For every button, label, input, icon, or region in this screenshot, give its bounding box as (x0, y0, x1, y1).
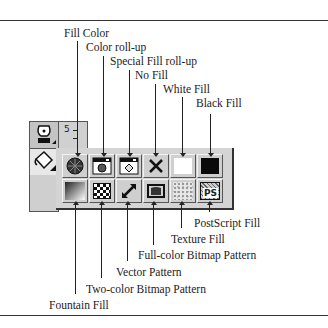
callout-line (182, 97, 183, 154)
label-fountain-fill: Fountain Fill (49, 299, 109, 311)
label-no-fill: No Fill (135, 69, 168, 81)
callout-line (101, 204, 102, 278)
callout-line (209, 204, 210, 212)
label-color-roll-up: Color roll-up (86, 41, 146, 53)
figure: 5 (0, 0, 328, 328)
ps-text: PS (203, 188, 218, 198)
callout-line (77, 41, 78, 154)
color-roll-up-button[interactable] (89, 154, 115, 178)
special-fill-roll-up-button[interactable] (116, 154, 142, 178)
color-wheel-icon (65, 156, 85, 176)
callout-line (129, 70, 130, 154)
ruler: 5 (58, 121, 88, 149)
white-fill-button[interactable] (170, 154, 196, 178)
callout-line (75, 204, 76, 294)
vector-pattern-button[interactable] (116, 179, 142, 203)
fountain-fill-button[interactable] (62, 179, 88, 203)
outline-tool-button[interactable] (29, 121, 59, 149)
label-full-color-bitmap-pattern: Full-color Bitmap Pattern (138, 249, 256, 261)
label-texture-fill: Texture Fill (171, 233, 225, 245)
toolbox-body (29, 175, 59, 212)
callout-line (210, 114, 211, 154)
full-color-bitmap-pattern-button[interactable] (143, 179, 169, 203)
paint-bucket-icon (30, 149, 58, 175)
callout-line (181, 204, 182, 228)
postscript-fill-button[interactable]: PS (197, 179, 223, 203)
bottom-rule (0, 315, 328, 316)
top-rule (0, 20, 328, 21)
black-swatch-icon (201, 158, 219, 174)
black-fill-button[interactable] (197, 154, 223, 178)
postscript-icon: PS (200, 182, 220, 200)
label-black-fill: Black Fill (196, 97, 242, 109)
fill-tool-button[interactable] (29, 148, 59, 176)
callout-line (103, 56, 104, 154)
label-white-fill: White Fill (163, 83, 210, 95)
callout-line (127, 204, 128, 261)
label-fill-color: Fill Color (64, 27, 109, 39)
white-swatch-icon (174, 158, 192, 174)
gradient-icon (65, 182, 85, 200)
special-fill-rollup-window-icon (119, 157, 139, 175)
label-special-fill-roll-up: Special Fill roll-up (110, 55, 197, 67)
fill-color-button[interactable] (62, 154, 88, 178)
callout-line (153, 204, 154, 245)
label-postscript-fill: PostScript Fill (194, 217, 260, 229)
no-fill-button[interactable] (143, 154, 169, 178)
ruler-digit: 5 (64, 124, 70, 134)
checkerboard-icon (93, 183, 111, 199)
texture-fill-button[interactable] (170, 179, 196, 203)
x-icon (147, 157, 165, 175)
label-two-color-bitmap-pattern: Two-color Bitmap Pattern (86, 283, 206, 295)
diagonal-arrow-icon (120, 182, 138, 200)
label-vector-pattern: Vector Pattern (116, 266, 181, 278)
pen-nib-icon (30, 122, 58, 148)
texture-icon (173, 182, 193, 200)
color-rollup-window-icon (92, 157, 112, 175)
callout-line (155, 84, 156, 154)
two-color-bitmap-pattern-button[interactable] (89, 179, 115, 203)
full-color-bitmap-icon (146, 182, 166, 200)
